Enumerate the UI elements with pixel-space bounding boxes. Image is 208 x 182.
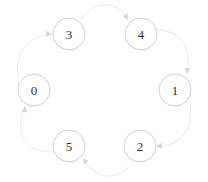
- node-0: 0: [18, 74, 50, 106]
- arrowhead-icon: [46, 31, 52, 37]
- node-4: 4: [125, 18, 157, 50]
- edge-2-to-5: [81, 156, 132, 176]
- node-3: 3: [53, 18, 85, 50]
- arrowhead-icon: [156, 143, 162, 149]
- node-1: 1: [159, 74, 191, 106]
- edge-4-to-1: [156, 30, 191, 74]
- node-5: 5: [53, 130, 85, 162]
- node-label: 1: [172, 83, 179, 98]
- node-2: 2: [124, 130, 156, 162]
- arrowhead-icon: [122, 13, 130, 21]
- edge-5-to-0: [21, 106, 54, 152]
- arrowhead-icon: [184, 68, 191, 75]
- nodes-layer: 034125: [18, 18, 191, 162]
- node-label: 0: [31, 83, 38, 98]
- edge-1-to-2: [156, 100, 191, 149]
- arrowhead-icon: [21, 106, 28, 113]
- edge-line: [156, 30, 188, 72]
- node-label: 2: [137, 139, 144, 154]
- edge-line: [158, 100, 191, 146]
- node-label: 3: [66, 27, 73, 42]
- node-label: 4: [138, 27, 145, 42]
- graph-diagram: 034125: [0, 0, 208, 182]
- edge-line: [21, 108, 54, 152]
- edge-3-to-4: [80, 5, 131, 22]
- edge-line: [84, 160, 132, 176]
- edge-line: [80, 5, 127, 20]
- node-label: 5: [66, 139, 73, 154]
- arrowhead-icon: [81, 156, 89, 164]
